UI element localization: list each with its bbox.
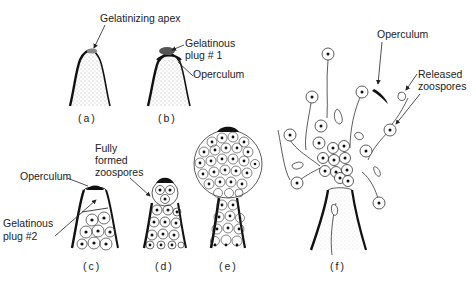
gelatinous-plug-1 <box>159 47 175 55</box>
operculum-e <box>217 127 239 132</box>
operculum-c <box>86 186 104 191</box>
label-fully-formed-line2: formed <box>95 154 128 166</box>
label-gelatinous-plug-1: Gelatinous <box>185 37 235 49</box>
panel-f: Operculum Released zoospores (f) <box>278 28 466 272</box>
label-fully-formed: Fully <box>95 142 118 154</box>
label-fully-formed-line3: zoospores <box>95 166 143 178</box>
caption-f: (f) <box>330 260 346 272</box>
label-operculum-f: Operculum <box>377 28 429 40</box>
label-operculum-b: Operculum <box>193 68 245 80</box>
label-gelatinous-plug-2-line2: plug #2 <box>3 230 38 242</box>
emerging-vesicle-e <box>194 130 262 198</box>
panel-e: (e) <box>194 127 262 272</box>
gelatinizing-apex <box>87 49 97 54</box>
operculum-f <box>372 89 388 104</box>
label-released-zoospores: Released <box>418 68 463 80</box>
emerging-vesicle-d <box>152 180 178 206</box>
label-gelatinizing-apex: Gelatinizing apex <box>100 12 181 24</box>
operculum-d <box>156 178 174 183</box>
caption-c: (c) <box>83 260 101 272</box>
caption-a: (a) <box>78 112 97 124</box>
label-gelatinous-plug-2: Gelatinous <box>3 217 53 229</box>
label-released-zoospores-line2: zoospores <box>418 80 466 92</box>
zoospore-release-diagram: Gelatinizing apex (a) Gelatinous plug # … <box>0 0 476 285</box>
caption-b: (b) <box>158 112 177 124</box>
caption-e: (e) <box>219 260 238 272</box>
panel-c: Operculum Gelatinous plug #2 (c) <box>3 170 118 272</box>
panel-b: Gelatinous plug # 1 Operculum (b) <box>148 37 245 124</box>
label-operculum-c: Operculum <box>20 170 72 182</box>
label-gelatinous-plug-1-line2: plug # 1 <box>185 49 223 61</box>
caption-d: (d) <box>155 260 174 272</box>
